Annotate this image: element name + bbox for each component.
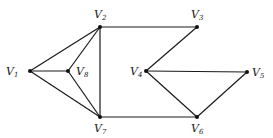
vertex-label-v7: V7 — [94, 122, 107, 136]
graph-diagram: V1V2V3V4V5V6V7V8 — [0, 0, 273, 138]
vertex-v2 — [98, 25, 102, 29]
edge-v8-v2 — [68, 27, 100, 71]
vertex-v4 — [144, 69, 148, 73]
edge-v4-v5 — [146, 71, 247, 72]
vertex-label-v6: V6 — [191, 122, 204, 136]
vertex-v5 — [245, 70, 249, 74]
vertex-label-v3: V3 — [191, 8, 204, 22]
edge-v4-v6 — [146, 71, 197, 117]
vertex-v6 — [195, 115, 199, 119]
vertex-label-v5: V5 — [252, 66, 265, 80]
vertex-label-v1: V1 — [6, 65, 18, 79]
vertex-label-v4: V4 — [130, 65, 142, 79]
vertex-label-v2: V2 — [94, 8, 107, 22]
edge-v1-v2 — [30, 27, 100, 71]
vertex-v1 — [28, 69, 32, 73]
vertex-v3 — [195, 25, 199, 29]
edge-v1-v7 — [30, 71, 100, 117]
vertex-label-v8: V8 — [76, 65, 89, 79]
vertex-v8 — [66, 69, 70, 73]
edge-v3-v4 — [146, 27, 197, 71]
vertex-v7 — [98, 115, 102, 119]
edge-v5-v6 — [197, 72, 247, 117]
